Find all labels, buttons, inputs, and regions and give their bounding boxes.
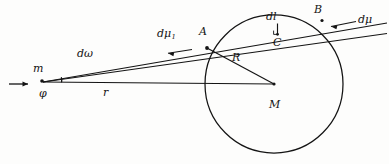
radius-r-line	[207, 48, 274, 84]
label-point-c: C	[273, 37, 281, 48]
label-solid-angle: dω	[77, 48, 93, 59]
label-mass-element-near: dμ1	[157, 28, 176, 40]
label-mass-element-far-base: d	[358, 13, 365, 26]
label-sphere-mass: M	[269, 99, 280, 110]
label-mass-element-near-subscript: 1	[171, 33, 176, 41]
dmu-arrow	[331, 22, 356, 30]
geometry-figure	[0, 0, 389, 164]
cone-lower-ray	[43, 34, 387, 83]
label-mass-element-near-base: d	[157, 27, 164, 40]
label-point-a: A	[199, 26, 207, 37]
label-mass-element-far-symbol: μ	[365, 13, 372, 26]
label-point-mass: m	[33, 63, 43, 74]
sphere-center-dot	[272, 82, 275, 85]
point-mass-dot	[40, 79, 44, 83]
point-b-dot	[320, 19, 323, 22]
incoming-force-arrow	[9, 82, 28, 87]
point-a-dot	[205, 46, 209, 50]
label-angle-phi: φ	[39, 88, 47, 99]
label-mass-element-far: dμ	[358, 14, 372, 25]
label-distance-r: r	[103, 87, 108, 98]
label-radius-r: R	[232, 52, 240, 63]
dmu1-arrow	[168, 50, 192, 57]
label-point-b: B	[314, 4, 322, 15]
label-chord-element: dl	[266, 11, 277, 22]
diagram-page: m φ r dω dμ1 A R dl C B dμ M	[0, 0, 389, 164]
baseline-r-line	[43, 82, 274, 84]
